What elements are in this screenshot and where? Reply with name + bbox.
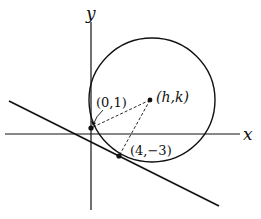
- point-4-neg3: [116, 153, 121, 158]
- x-axis-label: x: [243, 124, 253, 144]
- point-0-1-label: (0,1): [96, 95, 127, 110]
- point-4-neg3-label: (4,−3): [130, 143, 172, 158]
- tangent-line: [9, 101, 219, 206]
- diagram-canvas: y x (h,k) (0,1) (4,−3): [0, 0, 261, 219]
- point-0-1: [88, 125, 93, 130]
- y-axis-label: y: [85, 3, 96, 23]
- center-point: [148, 98, 153, 103]
- center-label: (h,k): [156, 89, 189, 105]
